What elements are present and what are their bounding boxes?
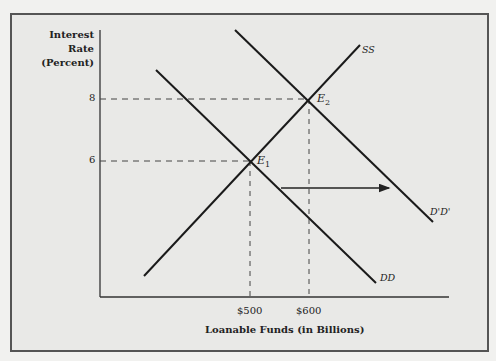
y-axis-label: Interest Rate (Percent) [20, 28, 94, 70]
ss-label: SS [362, 44, 375, 55]
x-tick-500: $500 [237, 305, 262, 316]
e2-label: E2 [317, 92, 330, 107]
ss-curve [144, 45, 360, 276]
e1-label: E1 [257, 154, 270, 169]
dd-label: DD [380, 272, 395, 283]
x-tick-600: $600 [296, 305, 321, 316]
dprime-curve [235, 30, 433, 222]
y-tick-6: 6 [89, 154, 95, 165]
dprime-label: D'D' [430, 206, 450, 217]
dd-curve [156, 70, 376, 283]
y-tick-8: 8 [89, 92, 95, 103]
x-axis-label: Loanable Funds (in Billions) [205, 324, 364, 335]
